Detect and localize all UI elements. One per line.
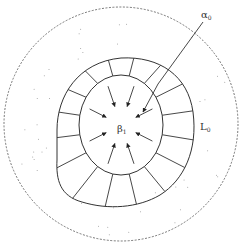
scatter-dot [32,156,33,157]
scatter-dot [80,48,81,49]
scatter-dot [82,52,83,53]
scatter-dot [34,89,35,90]
scatter-dot [34,159,35,160]
segment-divider [144,167,165,192]
inward-arrow [90,109,107,117]
scatter-dot [49,98,50,99]
scatter-dot [68,194,69,195]
scatter-dot [200,101,201,102]
scatter-dot [175,186,176,187]
inward-arrow [127,86,134,106]
scatter-dot [109,234,110,235]
diagram-canvas: α0 β1 L0 [0,0,242,248]
scatter-dot [119,24,120,25]
scatter-dot [38,139,39,140]
scatter-dot [187,187,188,188]
scatter-dot [79,33,80,34]
segment-divider [108,60,112,76]
inward-arrow [136,133,153,141]
scatter-dot [48,69,49,70]
scatter-dot [81,203,82,204]
scatter-dot [180,209,181,210]
segment-divider [57,153,86,168]
L-label: L0 [200,121,211,133]
scatter-dot [217,176,218,177]
scatter-dot [46,148,47,149]
scatter-dot [174,222,175,223]
segment-divider [129,58,134,76]
segment-divider [162,135,193,140]
segment-divider [85,71,97,84]
scatter-dot [42,152,43,153]
scatter-dot [216,175,217,176]
scatter-dot [80,29,81,30]
inward-arrow [108,86,115,106]
alpha-arrow-line [143,84,158,112]
scatter-dot [217,76,218,77]
scatter-dot [140,211,141,212]
segment-divider [162,111,193,115]
scatter-dot [98,226,99,227]
segment-divider [57,135,80,138]
segment-divider [156,84,183,97]
alpha-leader-line [158,22,203,84]
segment-divider [59,112,80,115]
segment-divider [105,174,113,206]
scatter-dot [155,192,156,193]
scatter-dot [37,124,38,125]
alpha-label: α0 [201,9,212,21]
scatter-dot [107,227,108,228]
segment-divider [68,90,86,98]
scatter-dot [204,99,205,100]
beta-label: β1 [117,123,127,135]
scatter-dot [24,129,25,130]
scatter-dot [207,150,208,151]
scatter-dot [78,58,79,59]
scatter-dot [128,232,129,233]
segment-divider [129,174,136,204]
scatter-dot [117,44,118,45]
scatter-dot [126,24,127,25]
segment-divider [73,167,98,199]
scatter-dot [33,151,34,152]
scatter-dot [37,170,38,171]
scatter-dot [224,82,225,83]
scatter-dot [184,179,185,180]
scatter-dot [21,164,22,165]
segment-divider [144,65,160,83]
inward-arrow [90,133,107,141]
inward-arrow [127,143,134,163]
scatter-dot [44,75,45,76]
inward-arrow [108,143,115,163]
scatter-dot [37,98,38,99]
scatter-dot [113,207,114,208]
segment-divider [156,153,185,168]
